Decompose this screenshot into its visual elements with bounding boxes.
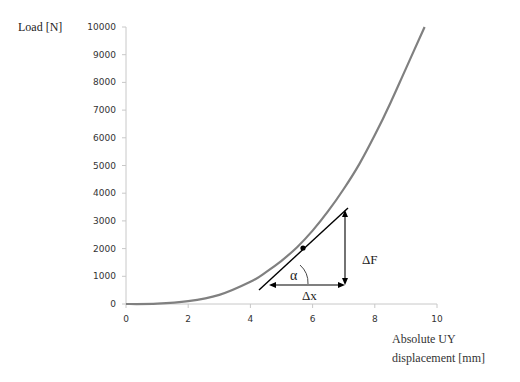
x-tick-label: 4 <box>248 314 254 324</box>
y-tick-label: 1000 <box>93 271 116 281</box>
x-tick-label: 0 <box>123 314 129 324</box>
y-axis-label: Load [N] <box>18 20 62 34</box>
y-tick-label: 10000 <box>87 22 116 32</box>
y-axis: 0100020003000400050006000700080009000100… <box>87 22 126 309</box>
alpha-arc <box>300 265 308 284</box>
y-tick-label: 9000 <box>93 50 116 60</box>
y-tick-label: 3000 <box>93 216 116 226</box>
chart-canvas: Load [N] 0100020003000400050006000700080… <box>0 0 520 382</box>
y-tick-label: 2000 <box>93 244 116 254</box>
delta-f-arrowhead-bottom <box>342 278 348 285</box>
x-tick-label: 6 <box>310 314 316 324</box>
x-tick-label: 8 <box>372 314 378 324</box>
delta-x-label: Δx <box>302 288 317 303</box>
x-axis: 0246810 <box>123 304 443 324</box>
y-tick-label: 0 <box>110 299 116 309</box>
x-tick-label: 10 <box>431 314 443 324</box>
y-tick-label: 7000 <box>93 105 116 115</box>
load-displacement-curve <box>126 27 425 304</box>
delta-f-label: ΔF <box>362 252 378 267</box>
delta-x-arrowhead-right <box>338 282 345 288</box>
x-axis-label-line1: Absolute UY <box>392 332 456 346</box>
alpha-label: α <box>290 268 298 283</box>
y-tick-label: 8000 <box>93 77 116 87</box>
x-tick-label: 2 <box>185 314 191 324</box>
delta-x-arrowhead-left <box>269 282 276 288</box>
x-axis-label-line2: displacement [mm] <box>392 351 485 365</box>
tangent-point <box>300 245 305 250</box>
y-tick-label: 4000 <box>93 188 116 198</box>
y-tick-label: 6000 <box>93 133 116 143</box>
y-tick-label: 5000 <box>93 161 116 171</box>
